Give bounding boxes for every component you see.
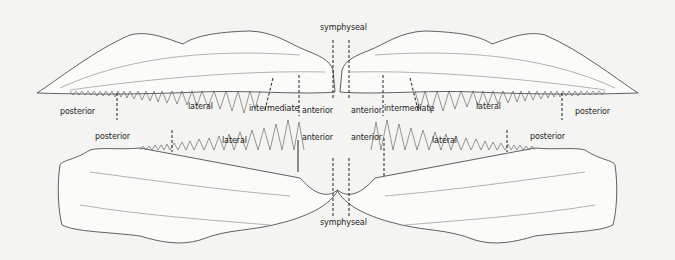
upper-left-anterior-label: anterior: [302, 107, 333, 115]
lower-left-posterior-label: posterior: [95, 133, 130, 141]
upper-left-posterior-label: posterior: [60, 108, 95, 116]
upper-right-intermediate-label: intermediate: [384, 105, 434, 113]
upper-symphyseal-label: symphyseal: [320, 24, 367, 32]
lower-jaw: [58, 148, 616, 243]
upper-teeth: [70, 91, 605, 113]
upper-right-lateral-label: lateral: [476, 103, 501, 111]
lower-left-lateral-label: lateral: [222, 137, 247, 145]
upper-jaw-right-cartilage: [340, 31, 638, 94]
lower-symphyseal-label: symphyseal: [320, 219, 367, 227]
upper-jaw: [37, 31, 638, 94]
upper-jaw-left-cartilage: [37, 31, 335, 94]
upper-left-intermediate-label: intermediate: [249, 105, 299, 113]
shark-jaw-diagram: symphyseal posterior lateral intermediat…: [0, 0, 675, 260]
upper-left-lateral-label: lateral: [188, 103, 213, 111]
lower-jaw-right-cartilage: [337, 148, 617, 243]
upper-right-posterior-label: posterior: [575, 108, 610, 116]
lower-right-lateral-label: lateral: [432, 137, 457, 145]
upper-right-anterior-label: anterior: [351, 107, 382, 115]
lower-left-anterior-label: anterior: [302, 134, 333, 142]
lower-jaw-left-cartilage: [58, 148, 338, 243]
lower-right-posterior-label: posterior: [530, 133, 565, 141]
lower-teeth: [140, 120, 535, 150]
lower-right-anterior-label: anterior: [351, 134, 382, 142]
